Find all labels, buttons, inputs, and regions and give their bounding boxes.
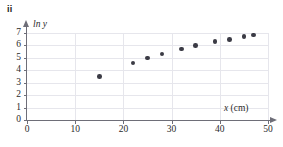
gridline-vertical bbox=[123, 33, 124, 120]
y-tick-mark bbox=[24, 83, 27, 84]
gridline-horizontal bbox=[27, 45, 268, 46]
y-axis-title-text: ln y bbox=[33, 19, 47, 29]
x-axis-variable: x bbox=[224, 103, 228, 113]
data-point bbox=[227, 37, 232, 42]
gridline-vertical bbox=[75, 33, 76, 120]
data-point bbox=[145, 56, 150, 61]
x-tick-label: 20 bbox=[112, 124, 134, 134]
data-point bbox=[242, 34, 247, 39]
gridline-horizontal bbox=[27, 95, 268, 96]
y-tick-mark bbox=[24, 58, 27, 59]
x-axis-title: x (cm) bbox=[224, 103, 249, 113]
gridline-horizontal bbox=[27, 33, 268, 34]
y-tick-label: 0 bbox=[5, 114, 21, 124]
data-point bbox=[193, 43, 198, 48]
gridline-vertical bbox=[172, 33, 173, 120]
data-point bbox=[179, 47, 184, 52]
y-tick-label: 6 bbox=[5, 39, 21, 49]
x-tick-label: 40 bbox=[209, 124, 231, 134]
y-tick-label: 3 bbox=[5, 77, 21, 87]
data-point bbox=[160, 52, 165, 57]
y-axis-title: ln y bbox=[33, 19, 47, 29]
x-tick-label: 50 bbox=[257, 124, 279, 134]
y-tick-mark bbox=[24, 108, 27, 109]
y-tick-label: 4 bbox=[5, 64, 21, 74]
panel-label: ii bbox=[7, 4, 12, 14]
y-tick-mark bbox=[24, 70, 27, 71]
y-tick-mark bbox=[24, 33, 27, 34]
gridline-vertical bbox=[220, 33, 221, 120]
y-tick-label: 5 bbox=[5, 52, 21, 62]
gridline-horizontal bbox=[27, 70, 268, 71]
y-axis-arrow-icon bbox=[23, 20, 29, 27]
x-axis-unit: (cm) bbox=[231, 103, 249, 113]
x-axis-arrow-icon bbox=[270, 117, 277, 123]
x-axis-line bbox=[27, 120, 272, 121]
y-tick-label: 7 bbox=[5, 27, 21, 37]
y-tick-label: 2 bbox=[5, 89, 21, 99]
x-tick-label: 0 bbox=[16, 124, 38, 134]
data-point bbox=[251, 33, 256, 38]
y-tick-mark bbox=[24, 95, 27, 96]
data-point bbox=[213, 39, 218, 44]
scatter-plot-figure: ii 01234567 01020304050 ln y x (cm) bbox=[0, 0, 283, 147]
gridline-vertical bbox=[268, 33, 269, 120]
gridline-horizontal bbox=[27, 83, 268, 84]
y-tick-label: 1 bbox=[5, 102, 21, 112]
x-tick-label: 30 bbox=[161, 124, 183, 134]
data-point bbox=[97, 74, 102, 79]
y-tick-mark bbox=[24, 45, 27, 46]
data-point bbox=[131, 61, 136, 66]
x-tick-label: 10 bbox=[64, 124, 86, 134]
